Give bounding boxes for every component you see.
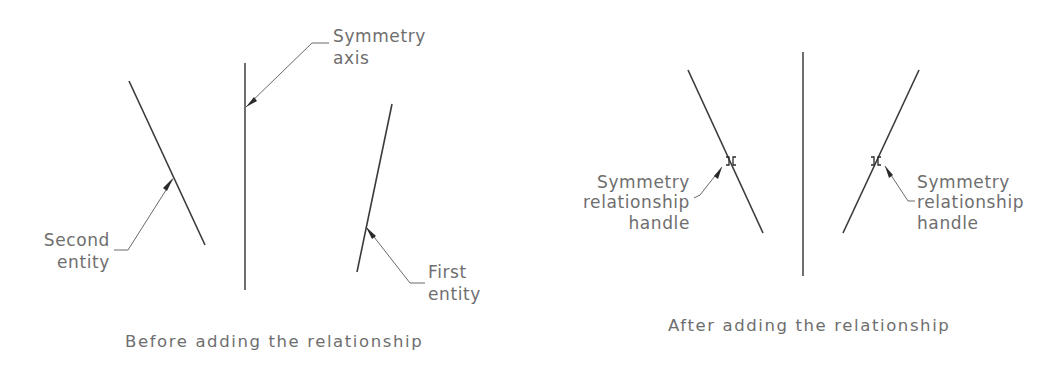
- left-entity-line: [688, 70, 763, 233]
- left-handle-label-line3: handle: [628, 213, 690, 233]
- left-handle-label-line2: relationship: [583, 192, 690, 212]
- symmetry-axis-leader: [246, 43, 329, 107]
- second-entity-label-line2: entity: [57, 252, 110, 272]
- before-caption: Before adding the relationship: [125, 332, 423, 351]
- symmetry-relationship-diagram: Symmetry axis Second entity First entity…: [0, 0, 1059, 371]
- symmetry-axis-label-line1: Symmetry: [333, 26, 426, 46]
- symmetry-axis-label-line2: axis: [333, 48, 369, 68]
- left-handle-label-line1: Symmetry: [597, 172, 690, 192]
- first-entity-line: [357, 104, 392, 272]
- second-entity-line: [129, 81, 205, 245]
- right-handle-leader: [885, 166, 915, 201]
- arrowhead-icon: [714, 167, 722, 179]
- second-entity-leader: [114, 178, 173, 250]
- after-caption: After adding the relationship: [668, 316, 950, 335]
- right-handle-label-line2: relationship: [917, 192, 1024, 212]
- first-entity-leader: [366, 227, 425, 283]
- second-entity-label-line1: Second: [44, 230, 110, 250]
- right-entity-line: [843, 70, 919, 233]
- right-handle-label-line3: handle: [917, 213, 979, 233]
- before-panel: Symmetry axis Second entity First entity…: [44, 26, 481, 351]
- after-panel: Symmetry relationship handle Symmetry re…: [583, 52, 1024, 335]
- arrowhead-icon: [163, 178, 173, 191]
- first-entity-label-line1: First: [428, 262, 467, 282]
- first-entity-label-line2: entity: [428, 284, 481, 304]
- right-handle-label-line1: Symmetry: [917, 172, 1010, 192]
- left-handle-leader: [694, 167, 722, 198]
